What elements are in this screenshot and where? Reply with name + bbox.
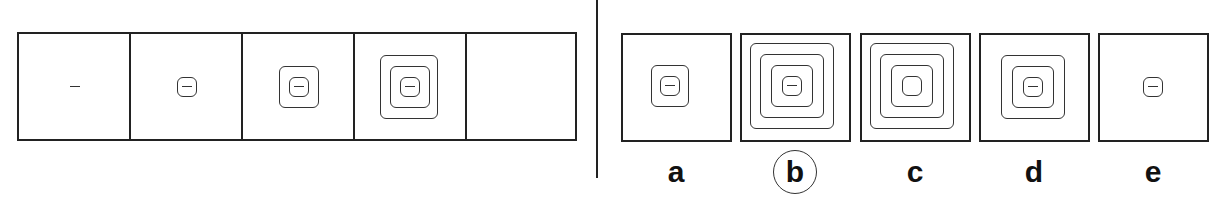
dash-icon: [787, 85, 797, 86]
sequence-cell-3: [243, 34, 355, 139]
option-c-label: c: [895, 156, 935, 188]
sequence-strip: [17, 32, 577, 141]
option-c-box[interactable]: [860, 33, 971, 142]
dash-icon: [665, 85, 675, 86]
option-d-box[interactable]: [979, 33, 1090, 142]
sequence-cell-2: [131, 34, 243, 139]
sequence-cell-5-empty: [467, 34, 575, 139]
dash-icon: [70, 86, 80, 87]
option-a-label: a: [656, 156, 696, 188]
divider: [596, 0, 598, 178]
dash-icon: [1028, 86, 1038, 87]
sequence-cell-4: [355, 34, 467, 139]
square-1: [902, 76, 922, 96]
option-e-box[interactable]: [1098, 33, 1209, 142]
option-a-box[interactable]: [621, 33, 732, 142]
dash-icon: [182, 86, 192, 87]
dash-icon: [405, 86, 415, 87]
option-e-label: e: [1133, 156, 1173, 188]
option-d-label: d: [1014, 156, 1054, 188]
dash-icon: [1148, 86, 1158, 87]
sequence-cell-1: [19, 34, 131, 139]
dash-icon: [294, 86, 304, 87]
option-b-box[interactable]: [740, 33, 851, 142]
option-b-label: b: [775, 156, 815, 188]
